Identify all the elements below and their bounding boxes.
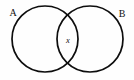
venn-diagram-figure: A B x	[0, 0, 134, 80]
venn-diagram-canvas: A B x	[0, 0, 134, 80]
set-label-a: A	[9, 7, 17, 18]
set-label-b: B	[119, 8, 126, 19]
element-label-x: x	[65, 35, 70, 45]
